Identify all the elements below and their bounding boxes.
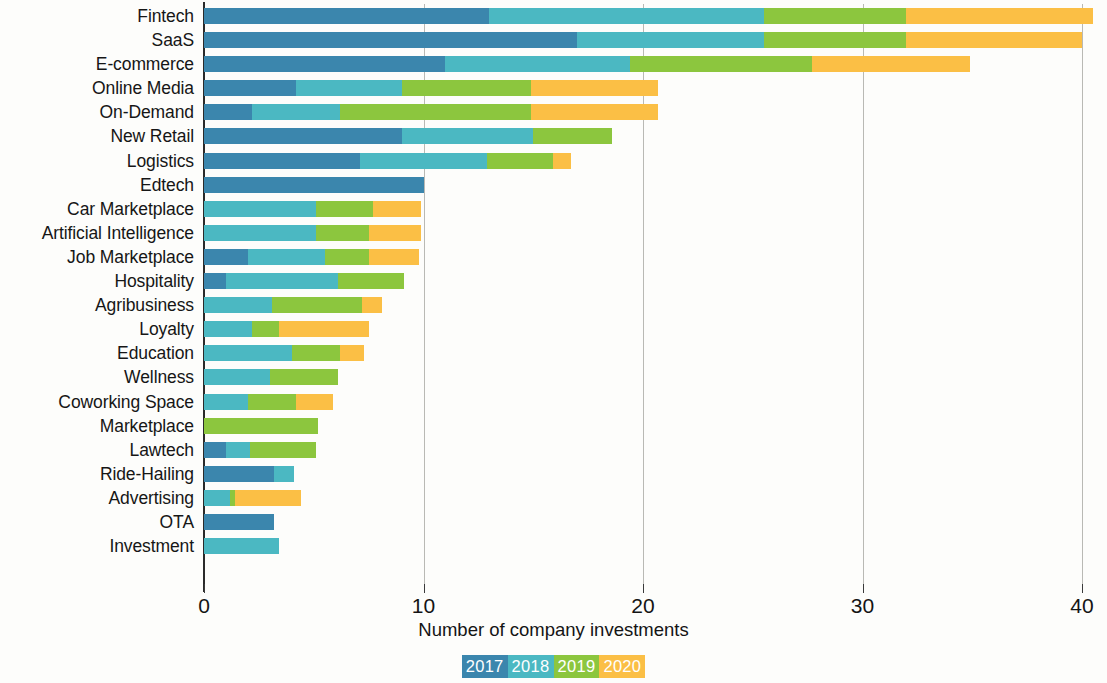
bar-segment-2017[interactable]	[204, 32, 577, 48]
stacked-bar[interactable]	[204, 297, 382, 313]
stacked-bar[interactable]	[204, 32, 1082, 48]
bar-row: Advertising	[204, 486, 1082, 510]
bar-segment-2018[interactable]	[577, 32, 764, 48]
bar-segment-2020[interactable]	[373, 201, 421, 217]
bar-segment-2019[interactable]	[250, 442, 316, 458]
stacked-bar[interactable]	[204, 345, 364, 361]
stacked-bar[interactable]	[204, 466, 294, 482]
bar-segment-2019[interactable]	[316, 201, 373, 217]
bar-segment-2019[interactable]	[252, 321, 278, 337]
legend-item-2019[interactable]: 2019	[554, 655, 600, 678]
bar-segment-2017[interactable]	[204, 104, 252, 120]
bar-segment-2019[interactable]	[204, 418, 318, 434]
stacked-bar[interactable]	[204, 225, 421, 241]
stacked-bar[interactable]	[204, 273, 404, 289]
stacked-bar[interactable]	[204, 490, 301, 506]
bar-segment-2018[interactable]	[204, 225, 316, 241]
bar-segment-2019[interactable]	[487, 153, 553, 169]
bar-segment-2019[interactable]	[340, 104, 531, 120]
bar-segment-2019[interactable]	[402, 80, 532, 96]
bar-segment-2018[interactable]	[402, 128, 534, 144]
bar-segment-2018[interactable]	[252, 104, 340, 120]
bar-segment-2018[interactable]	[296, 80, 401, 96]
bar-segment-2020[interactable]	[362, 297, 382, 313]
bar-segment-2018[interactable]	[204, 369, 270, 385]
bar-segment-2020[interactable]	[906, 8, 1093, 24]
bar-segment-2020[interactable]	[531, 80, 658, 96]
bar-segment-2018[interactable]	[274, 466, 294, 482]
stacked-bar[interactable]	[204, 104, 658, 120]
bar-segment-2017[interactable]	[204, 514, 274, 530]
stacked-bar[interactable]	[204, 56, 970, 72]
bar-segment-2017[interactable]	[204, 466, 274, 482]
stacked-bar[interactable]	[204, 369, 338, 385]
bar-segment-2017[interactable]	[204, 442, 226, 458]
bar-segment-2018[interactable]	[204, 321, 252, 337]
legend-item-2020[interactable]: 2020	[599, 655, 645, 678]
stacked-bar[interactable]	[204, 177, 424, 193]
bar-segment-2018[interactable]	[204, 297, 272, 313]
bar-segment-2020[interactable]	[531, 104, 658, 120]
bar-segment-2017[interactable]	[204, 249, 248, 265]
bar-segment-2017[interactable]	[204, 8, 489, 24]
bar-row: Agribusiness	[204, 293, 1082, 317]
stacked-bar[interactable]	[204, 201, 421, 217]
stacked-bar[interactable]	[204, 538, 279, 554]
bar-segment-2020[interactable]	[812, 56, 970, 72]
bar-segment-2017[interactable]	[204, 80, 296, 96]
stacked-bar[interactable]	[204, 249, 419, 265]
category-label: Coworking Space	[58, 390, 194, 414]
bar-segment-2017[interactable]	[204, 153, 360, 169]
bar-segment-2019[interactable]	[764, 8, 907, 24]
bar-segment-2017[interactable]	[204, 273, 226, 289]
bar-segment-2017[interactable]	[204, 177, 424, 193]
bar-segment-2019[interactable]	[764, 32, 907, 48]
bar-segment-2018[interactable]	[204, 538, 279, 554]
bar-segment-2020[interactable]	[235, 490, 301, 506]
bar-segment-2018[interactable]	[204, 201, 316, 217]
bar-segment-2020[interactable]	[296, 394, 333, 410]
bar-segment-2018[interactable]	[445, 56, 629, 72]
x-axis-ticks: 010203040	[204, 584, 1082, 618]
stacked-bar[interactable]	[204, 394, 334, 410]
bar-segment-2017[interactable]	[204, 128, 402, 144]
stacked-bar[interactable]	[204, 321, 369, 337]
bar-segment-2019[interactable]	[248, 394, 296, 410]
stacked-bar[interactable]	[204, 418, 318, 434]
stacked-bar[interactable]	[204, 128, 612, 144]
bar-segment-2019[interactable]	[292, 345, 340, 361]
bar-segment-2018[interactable]	[204, 394, 248, 410]
bar-segment-2019[interactable]	[533, 128, 612, 144]
category-label: Job Marketplace	[67, 245, 194, 269]
category-label: Hospitality	[114, 269, 194, 293]
bar-segment-2018[interactable]	[489, 8, 763, 24]
stacked-bar[interactable]	[204, 80, 658, 96]
bar-segment-2018[interactable]	[226, 273, 338, 289]
bar-segment-2020[interactable]	[369, 225, 422, 241]
bar-segment-2019[interactable]	[270, 369, 338, 385]
bar-row: Edtech	[204, 173, 1082, 197]
stacked-bar[interactable]	[204, 514, 274, 530]
bar-segment-2020[interactable]	[279, 321, 369, 337]
bar-segment-2019[interactable]	[630, 56, 812, 72]
bar-segment-2020[interactable]	[340, 345, 364, 361]
bar-segment-2017[interactable]	[204, 56, 445, 72]
stacked-bar[interactable]	[204, 8, 1093, 24]
bar-segment-2020[interactable]	[906, 32, 1082, 48]
stacked-bar[interactable]	[204, 153, 571, 169]
bar-segment-2018[interactable]	[204, 345, 292, 361]
bar-segment-2019[interactable]	[316, 225, 369, 241]
stacked-bar[interactable]	[204, 442, 316, 458]
bar-segment-2018[interactable]	[204, 490, 230, 506]
legend-item-2017[interactable]: 2017	[462, 655, 508, 678]
legend-item-2018[interactable]: 2018	[508, 655, 554, 678]
bar-segment-2019[interactable]	[325, 249, 369, 265]
bar-segment-2018[interactable]	[360, 153, 487, 169]
bar-segment-2018[interactable]	[226, 442, 250, 458]
bar-segment-2020[interactable]	[369, 249, 419, 265]
bar-row: On-Demand	[204, 100, 1082, 124]
bar-segment-2019[interactable]	[338, 273, 404, 289]
bar-segment-2018[interactable]	[248, 249, 325, 265]
bar-segment-2019[interactable]	[272, 297, 362, 313]
bar-segment-2020[interactable]	[553, 153, 571, 169]
